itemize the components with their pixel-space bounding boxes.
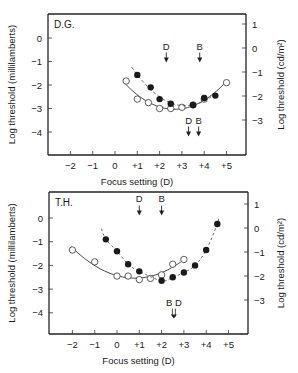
x-tick-label: +4 [199,160,210,171]
annotation-label: D [163,41,170,52]
arrow-head-icon [197,58,202,63]
data-point-filled [212,92,218,98]
annotation-label: B [195,115,201,126]
data-point-filled [181,269,187,275]
y-axis-title-right: Log threshold (cd/m²) [275,39,286,129]
y-axis-title-right: Log threshold (cd/m²) [275,218,286,308]
x-tick-label: 0 [114,339,119,350]
data-point-open [136,276,142,282]
annotation-label: D [136,193,143,204]
chart-panel-th: T.H.−2−10+1+2+3+4+5Focus setting (D)0−1−… [6,192,286,366]
annotation-label: B D [166,297,182,308]
x-tick-label: +3 [176,160,187,171]
data-point-filled [190,102,196,108]
data-point-filled [158,278,164,284]
data-point-filled [114,248,120,254]
panel-label: D.G. [54,19,75,30]
arrow-head-icon [196,132,201,137]
x-tick-label: +5 [223,339,234,350]
data-point-filled [136,268,142,274]
y-tick-label: −2 [31,80,42,91]
annotation-label: B [158,193,164,204]
data-point-filled [103,236,109,242]
data-point-filled [147,84,153,90]
y-tick-label-right: −3 [252,115,263,126]
data-point-filled [134,72,140,78]
y-tick-label: 0 [38,213,43,224]
y-tick-label-right: −3 [254,295,265,306]
x-tick-label: +1 [134,339,145,350]
x-axis-title: Focus setting (D) [102,355,174,366]
data-point-open [145,99,151,105]
arrow-head-icon [137,210,142,215]
x-tick-label: +1 [132,160,143,171]
data-point-open [158,272,164,278]
y-tick-label: −2 [32,260,43,271]
data-point-open [223,79,229,85]
y-tick-label: −3 [32,284,43,295]
y-tick-label: −4 [32,307,43,318]
x-tick-label: +2 [154,160,165,171]
data-point-filled [192,262,198,268]
y-tick-label-right: −2 [252,91,263,102]
data-point-open [134,96,140,102]
data-point-open [92,259,98,265]
y-tick-label-right: 1 [252,19,257,30]
x-tick-label: +4 [201,339,212,350]
y-tick-label: −3 [31,103,42,114]
y-axis-title-left: Log threshold (millilamberts) [6,25,17,144]
y-tick-label: −1 [32,236,43,247]
y-tick-label: −4 [31,127,42,138]
data-point-open [69,247,75,253]
arrow-head-icon [186,132,191,137]
x-axis-title: Focus setting (D) [101,176,173,187]
data-point-open [125,273,131,279]
data-point-open [181,256,187,262]
data-point-open [170,261,176,267]
annotation-label: D [185,115,192,126]
x-tick-label: −1 [87,160,98,171]
arrow-head-icon [159,210,164,215]
arrow-head-icon [171,315,177,319]
x-tick-label: +5 [221,160,232,171]
annotation-label: B [197,41,203,52]
x-tick-label: −2 [65,160,76,171]
arrow-head-icon [164,58,169,63]
figure: D.G.−2−10+1+2+3+4+5Focus setting (D)0−1−… [0,0,298,373]
chart-panel-dg: D.G.−2−10+1+2+3+4+5Focus setting (D)0−1−… [6,14,286,187]
data-point-open [114,273,120,279]
y-tick-label: −1 [31,56,42,67]
data-point-filled [214,221,220,227]
data-point-filled [170,274,176,280]
panel-label: T.H. [55,197,73,208]
data-point-open [123,78,129,84]
x-tick-label: −2 [67,339,78,350]
y-tick-label-right: −1 [254,247,265,258]
data-point-open [147,275,153,281]
fit-curve-solid [125,83,225,110]
y-tick-label-right: 0 [254,223,259,234]
y-axis-title-left: Log threshold (millilamberts) [6,203,17,322]
y-tick-label-right: 0 [252,43,257,54]
chart-svg: D.G.−2−10+1+2+3+4+5Focus setting (D)0−1−… [0,0,298,373]
y-tick-label-right: −2 [254,271,265,282]
y-tick-label-right: 1 [254,199,259,210]
x-tick-label: +2 [156,339,167,350]
x-tick-label: −1 [89,339,100,350]
y-tick-label: 0 [37,33,42,44]
x-tick-label: 0 [112,160,117,171]
data-point-filled [203,247,209,253]
x-tick-label: +3 [178,339,189,350]
data-point-filled [201,95,207,101]
data-point-open [156,105,162,111]
data-point-filled [125,261,131,267]
data-point-filled [168,101,174,107]
y-tick-label-right: −1 [252,67,263,78]
data-point-filled [156,96,162,102]
